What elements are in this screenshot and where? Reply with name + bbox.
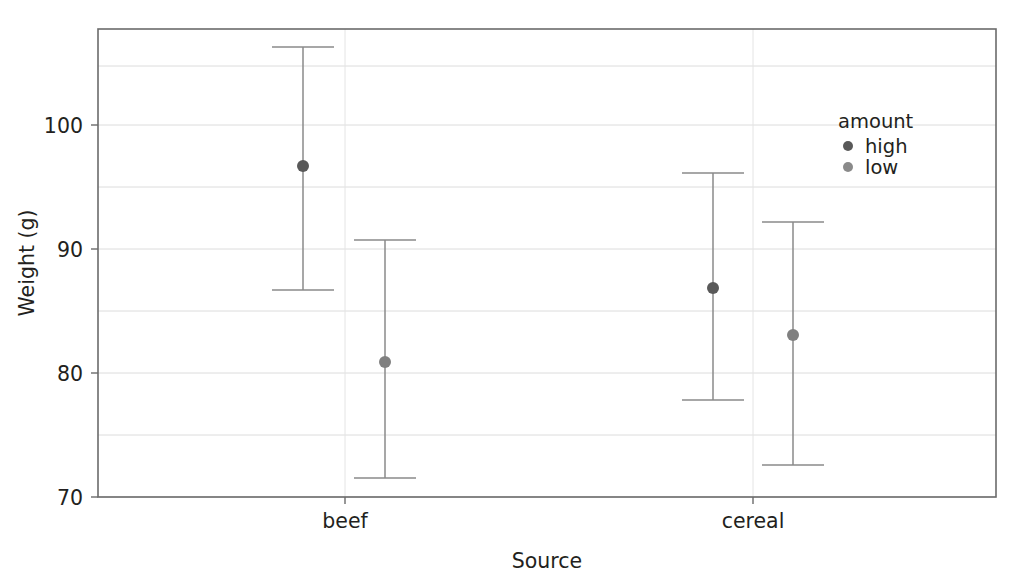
chart-figure: 100 90 80 70 Weight (g) beef cereal Sour…	[0, 0, 1022, 583]
y-tick-label-100: 100	[44, 114, 83, 138]
legend-title: amount	[838, 110, 914, 133]
data-point-cereal-low	[787, 329, 799, 341]
legend-marker-low	[843, 162, 853, 172]
y-axis-ticks	[91, 125, 98, 497]
data-point-beef-high	[297, 160, 309, 172]
plot-canvas: 100 90 80 70 Weight (g) beef cereal Sour…	[0, 0, 1022, 583]
legend-label-low: low	[865, 156, 898, 179]
x-tick-label-beef: beef	[322, 509, 368, 533]
y-tick-label-70: 70	[57, 486, 83, 510]
legend-marker-high	[843, 141, 853, 151]
x-tick-label-cereal: cereal	[722, 509, 785, 533]
legend-label-high: high	[865, 135, 908, 158]
y-tick-label-80: 80	[57, 362, 83, 386]
x-axis-title: Source	[512, 549, 582, 573]
x-axis-ticks	[345, 497, 753, 504]
y-axis-title: Weight (g)	[15, 210, 39, 317]
plot-background	[98, 29, 996, 497]
data-point-beef-low	[379, 356, 391, 368]
data-point-cereal-high	[707, 282, 719, 294]
y-tick-label-90: 90	[57, 238, 83, 262]
